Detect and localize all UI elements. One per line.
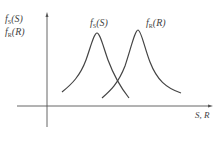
curve-label-fs: fS(S)	[90, 17, 108, 29]
y-axis-label-fr: fR(R)	[5, 26, 25, 38]
curve-fs	[62, 33, 129, 98]
x-axis-arrow-icon	[208, 105, 213, 108]
x-axis-label: S, R	[195, 110, 210, 120]
stress-strength-diagram: fS(S) fR(R) fS(S) fR(R) S, R	[0, 0, 220, 148]
curve-fr	[102, 30, 181, 98]
y-axis-label-fs: fS(S)	[5, 13, 23, 25]
curve-label-fr: fR(R)	[146, 17, 166, 29]
y-axis-arrow-icon	[46, 12, 49, 17]
